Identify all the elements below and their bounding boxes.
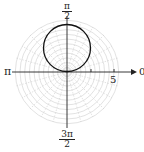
angle-label-half-pi: π 2: [62, 2, 72, 21]
angle-label-pi: π: [4, 66, 11, 77]
angle-label-zero: 0: [139, 67, 144, 77]
axes: [12, 16, 131, 128]
radial-tick-5: 5: [110, 75, 116, 85]
angle-label-three-half-pi: 3π 2: [59, 130, 75, 149]
arrow-head-icon: [131, 69, 137, 75]
